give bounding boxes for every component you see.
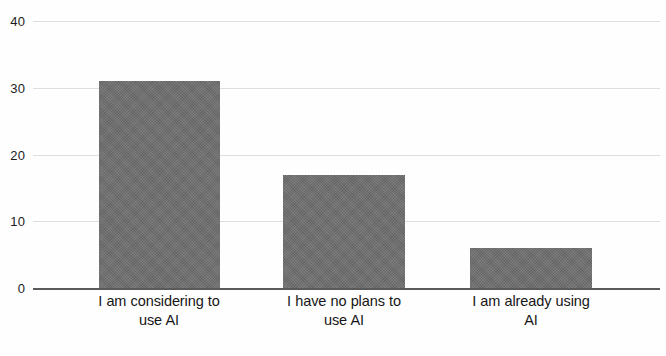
y-tick-label-30: 30 <box>0 81 25 94</box>
x-tick-label-line-2: AI <box>421 311 641 330</box>
x-axis-labels: I am considering to use AI I have no pla… <box>33 292 660 348</box>
bar-no-plans-to-use-ai[interactable] <box>283 175 405 288</box>
plot-area: 40 30 20 10 0 <box>33 21 660 288</box>
y-tick-label-40: 40 <box>0 15 25 28</box>
bar-considering-to-use-ai[interactable] <box>99 81 220 288</box>
x-tick-label-already-using-ai: I am already using AI <box>421 292 641 330</box>
axis-baseline-0: 0 <box>33 288 660 290</box>
y-tick-label-0: 0 <box>0 282 25 295</box>
bar-chart: 40 30 20 10 0 I am considering to use AI… <box>0 0 666 356</box>
y-tick-label-10: 10 <box>0 215 25 228</box>
bars-layer <box>33 21 660 288</box>
bar-already-using-ai[interactable] <box>470 248 592 288</box>
x-tick-label-line-1: I am already using <box>421 292 641 311</box>
y-tick-label-20: 20 <box>0 148 25 161</box>
